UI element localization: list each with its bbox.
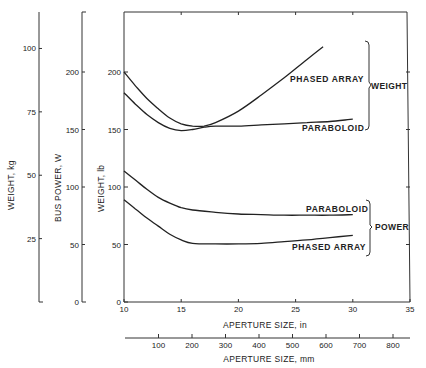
- weight-kg-axis-line: [39, 12, 43, 302]
- plot-frame: 050100150200: [108, 12, 410, 307]
- x-tick-label: 35: [406, 305, 415, 314]
- y-tick-label-power: 0: [75, 298, 80, 307]
- y-tick-label-power: 100: [66, 183, 80, 192]
- x-tick-label-mm: 400: [252, 341, 266, 350]
- weight-kg-axis: 255075100: [23, 12, 43, 302]
- label-phased-array-power: PHASED ARRAY: [292, 242, 366, 252]
- x-tick-label: 20: [234, 305, 243, 314]
- y-tick-label-lb: 100: [108, 183, 122, 192]
- group-label-power: POWER: [375, 222, 409, 232]
- x-axis-mm-title: APERTURE SIZE, mm: [223, 354, 314, 364]
- plot-border: [124, 12, 410, 302]
- x-tick-label: 30: [348, 305, 357, 314]
- y-tick-label-power: 150: [66, 126, 80, 135]
- label-phased-array-weight: PHASED ARRAY: [290, 74, 364, 84]
- x-tick-label-mm: 500: [286, 341, 300, 350]
- y-tick-label-power: 50: [70, 241, 79, 250]
- bus-power-axis-title: BUS POWER, W: [53, 154, 63, 222]
- y-tick-label-kg: 100: [23, 44, 37, 53]
- phased-array-weight-curve: [124, 47, 323, 127]
- x-tick-label-mm: 600: [319, 341, 333, 350]
- x-axis-mm: 100200300400500600700800: [125, 334, 410, 350]
- x-tick-label-mm: 100: [152, 341, 166, 350]
- x-tick-label-mm: 800: [386, 341, 400, 350]
- x-tick-label: 10: [120, 305, 129, 314]
- y-tick-label-kg: 75: [27, 108, 36, 117]
- x-axis-inch-title: APERTURE SIZE, in: [223, 320, 307, 330]
- y-tick-label-power: 200: [66, 68, 80, 77]
- group-label-weight: WEIGHT: [371, 81, 408, 91]
- label-paraboloid-weight: PARABOLOID: [302, 123, 365, 133]
- y-tick-label-lb: 150: [108, 126, 122, 135]
- y-tick-label-lb: 50: [112, 241, 121, 250]
- y-tick-label-lb: 200: [108, 68, 122, 77]
- y-tick-label-kg: 25: [27, 235, 36, 244]
- x-tick-label-mm: 300: [219, 341, 233, 350]
- x-tick-label-mm: 700: [353, 341, 367, 350]
- weight-kg-axis-title: WEIGHT, kg: [6, 160, 16, 210]
- bus-power-axis-line: [82, 12, 86, 302]
- x-axis-inch-ticks: 101520253035: [120, 299, 415, 314]
- aperture-size-chart: 255075100 WEIGHT, kg 050100150200 BUS PO…: [0, 0, 426, 368]
- x-tick-label: 15: [177, 305, 186, 314]
- x-tick-label-mm: 200: [185, 341, 199, 350]
- y-tick-label-kg: 50: [27, 171, 36, 180]
- label-paraboloid-power: PARABOLOID: [306, 204, 369, 214]
- weight-lb-axis-title: WEIGHT, lb: [96, 165, 106, 212]
- x-tick-label: 25: [291, 305, 300, 314]
- bus-power-axis: 050100150200: [66, 12, 86, 307]
